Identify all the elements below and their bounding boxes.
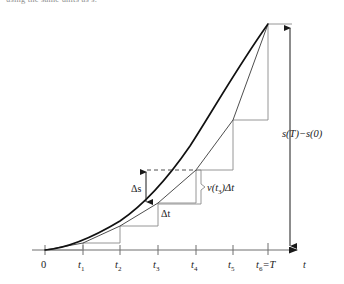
tick-label-t5: t5 bbox=[228, 259, 235, 273]
x-axis-tick-labels: 0 t1 t2 t3 t4 t5 t6=T t bbox=[41, 259, 306, 273]
step-segment-5 bbox=[233, 120, 268, 170]
total-displacement-label: s(T)−s(0) bbox=[282, 128, 323, 140]
velocity-displacement-figure: using the same units as s. bbox=[0, 0, 344, 284]
tick-label-origin: 0 bbox=[41, 259, 46, 270]
staircase-steps-group bbox=[45, 24, 268, 250]
secant-polyline bbox=[45, 24, 268, 250]
velocity-term-brace-group: v(t3)Δt bbox=[196, 170, 235, 204]
tick-label-t4: t4 bbox=[191, 259, 198, 273]
delta-s-measure: Δs bbox=[131, 172, 146, 202]
tick-label-t1: t1 bbox=[78, 259, 85, 273]
cut-off-caption-line: using the same units as s. bbox=[6, 0, 186, 4]
delta-t-label: Δt bbox=[161, 208, 170, 219]
tick-label-t2: t2 bbox=[115, 259, 122, 273]
figure-canvas: Δs Δt v(t3)Δt s(T)−s(0) 0 t1 bbox=[0, 0, 344, 284]
delta-s-label: Δs bbox=[131, 183, 141, 194]
total-displacement-measure: s(T)−s(0) bbox=[268, 24, 323, 246]
velocity-term-label: v(t3)Δt bbox=[207, 182, 235, 196]
delta-t-measure: Δt bbox=[158, 204, 196, 219]
velocity-term-brace bbox=[196, 170, 205, 204]
x-axis-label: t bbox=[303, 259, 306, 270]
step-segment-2 bbox=[120, 226, 158, 243]
velocity-term-suffix: )Δt bbox=[221, 182, 236, 194]
tick-label-t6: t6=T bbox=[256, 259, 277, 273]
tick-label-t3: t3 bbox=[153, 259, 160, 273]
displacement-curve bbox=[45, 24, 268, 250]
